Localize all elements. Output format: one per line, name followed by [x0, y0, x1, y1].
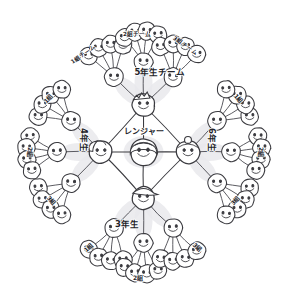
eye-left: [143, 271, 145, 274]
eye-left: [213, 118, 215, 121]
label-group-g5-c2: 2組チーム: [123, 30, 151, 38]
eye-right: [160, 268, 162, 270]
eye-left: [106, 41, 108, 44]
group-node-g4-c2[interactable]: [47, 142, 67, 162]
eye-right: [228, 212, 230, 215]
eye-left: [222, 212, 224, 215]
group-node-g3-c3[interactable]: [164, 218, 184, 237]
eye-right: [239, 206, 241, 209]
node-outline: [217, 205, 236, 224]
node-outline: [222, 143, 241, 162]
eye-left: [254, 134, 256, 137]
eye-right: [199, 51, 201, 54]
eye-right: [64, 86, 66, 88]
eye-left: [169, 41, 171, 44]
label-group-g4-c2: 2組: [26, 147, 34, 157]
eye-right: [146, 59, 148, 62]
label-group-g3-c2: 2組: [133, 274, 143, 282]
label-hub-grade4: 4年生: [79, 128, 89, 152]
node-layer: [17, 21, 271, 283]
eye-left: [67, 118, 69, 121]
eye-left: [23, 157, 25, 160]
eye-left: [257, 157, 259, 160]
eye-right: [228, 86, 230, 89]
eye-right: [233, 149, 235, 152]
radial-mindmap-svg: レンジャー5年生チーム4年生6年生3年生1組チーム2組チーム3組チーム1組2組3…: [0, 0, 287, 304]
node-outline: [47, 142, 67, 162]
member-node-g6-c1-4[interactable]: [217, 80, 236, 98]
member-node-g6-c2-4[interactable]: [246, 161, 265, 180]
member-node-g4-c1-4[interactable]: [53, 80, 71, 98]
eye-right: [146, 240, 148, 243]
node-outline: [176, 141, 200, 164]
eye-left: [156, 255, 158, 258]
label-center-ranger: レンジャー: [124, 127, 164, 136]
eye-right: [32, 133, 34, 136]
group-node-g5-c1[interactable]: [104, 68, 123, 87]
label-hub-grade6: 6年生: [207, 128, 217, 152]
eye-left: [94, 254, 96, 257]
eye-left: [120, 264, 122, 267]
eye-right: [116, 74, 118, 77]
eye-left: [213, 180, 215, 183]
node-outline: [208, 174, 227, 193]
eye-left: [34, 113, 36, 116]
eye-left: [252, 168, 254, 171]
hub-node-grade4[interactable]: [89, 141, 112, 163]
eye-left: [227, 149, 229, 152]
eye-right: [219, 180, 221, 183]
eye-right: [104, 149, 106, 152]
eye-right: [175, 225, 177, 228]
node-outline: [23, 161, 42, 179]
eye-left: [139, 102, 141, 105]
eye-left: [46, 206, 48, 209]
label-group-g6-c2: 2組: [257, 147, 265, 157]
member-node-g6-c3-4[interactable]: [217, 205, 236, 224]
group-node-g6-c2[interactable]: [222, 143, 241, 162]
group-node-g4-c1[interactable]: [61, 111, 80, 130]
eye-right: [252, 113, 254, 116]
eye-left: [138, 148, 141, 151]
eye-left: [34, 185, 36, 188]
eye-left: [156, 44, 158, 47]
eye-right: [147, 148, 150, 151]
eye-right: [73, 118, 75, 121]
group-node-g4-c3[interactable]: [61, 173, 81, 193]
group-node-g3-c2[interactable]: [133, 233, 153, 252]
eye-left: [22, 145, 24, 148]
eye-left: [96, 149, 98, 152]
eye-right: [252, 185, 254, 188]
eye-right: [191, 149, 193, 152]
eye-right: [34, 167, 36, 170]
eye-right: [53, 206, 55, 209]
node-outline: [246, 161, 265, 180]
eye-left: [169, 258, 171, 261]
node-outline: [217, 80, 236, 98]
eye-left: [154, 267, 156, 269]
eye-left: [222, 87, 224, 90]
eye-left: [181, 255, 183, 258]
eye-left: [38, 197, 40, 200]
node-outline: [61, 173, 81, 193]
eye-right: [258, 167, 260, 170]
eye-left: [58, 86, 60, 88]
center-node-ranger[interactable]: [130, 139, 158, 166]
eye-left: [27, 168, 29, 171]
eye-right: [73, 180, 75, 183]
eye-left: [57, 212, 59, 215]
eye-left: [168, 225, 170, 228]
node-outline: [61, 111, 80, 130]
group-node-g6-c3[interactable]: [208, 174, 227, 193]
member-node-g4-c2-4[interactable]: [23, 161, 42, 179]
eye-left: [67, 180, 69, 183]
eye-left: [154, 32, 156, 35]
eye-right: [40, 184, 42, 187]
eye-right: [146, 195, 148, 198]
label-hub-grade3: 3年生: [115, 219, 139, 229]
eye-left: [110, 74, 112, 77]
eye-left: [183, 149, 185, 152]
eye-left: [139, 195, 141, 198]
hair-bun-icon: [185, 136, 192, 143]
eye-left: [38, 102, 40, 105]
eye-right: [248, 102, 250, 105]
